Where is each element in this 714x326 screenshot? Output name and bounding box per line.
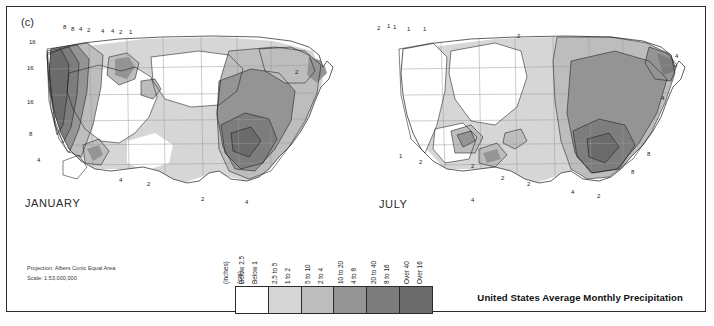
- contour-label: 2: [201, 196, 204, 202]
- contour-label: 1: [407, 26, 410, 32]
- projection-text: Projection: Albers Conic Equal Area: [27, 263, 115, 273]
- contour-label: 2: [87, 27, 90, 33]
- legend-swatch[interactable]: [367, 287, 400, 313]
- contour-label: 2: [377, 25, 380, 31]
- legend-label-group: 20 to 40 8 to 16: [367, 222, 400, 284]
- legend-cm-label: 10 to 20: [337, 261, 344, 284]
- legend-inches-label: 8 to 16: [383, 264, 390, 284]
- contour-label: 16: [29, 39, 36, 45]
- map-credits: Projection: Albers Conic Equal Area Scal…: [27, 263, 115, 284]
- contour-label: 4: [37, 157, 40, 163]
- contour-label: 2: [295, 69, 298, 75]
- legend-cm-label: 20 to 40: [370, 261, 377, 284]
- scale-text: Scale: 1:53,000,000: [27, 273, 115, 283]
- contour-label: 8: [29, 131, 32, 137]
- contour-label: 2: [147, 181, 150, 187]
- legend-cm-label: Below 2.5: [238, 256, 245, 284]
- contour-label: 4: [79, 26, 82, 32]
- contour-label: 16: [27, 65, 34, 71]
- contour-label: 8: [63, 24, 66, 30]
- legend-label-group: 5 to 10 2 to 4: [301, 222, 334, 284]
- contour-label: 4: [119, 177, 122, 183]
- figure-container: (c): [0, 0, 714, 326]
- contour-label: 1: [393, 24, 396, 30]
- contour-label: 4: [101, 28, 104, 34]
- map-label-july: JULY: [379, 198, 407, 210]
- legend-inches-label: Over 16: [416, 261, 423, 284]
- contour-label: 8: [631, 169, 634, 175]
- legend-swatch[interactable]: [269, 287, 302, 313]
- contour-label: 2: [527, 181, 530, 187]
- contour-label: 2: [471, 163, 474, 169]
- contour-label: 8: [71, 26, 74, 32]
- legend: (cm) (inches) Below 2.5 Below 1 2.5 to 5…: [235, 222, 435, 314]
- legend-label-group: Over 40 Over 16: [400, 222, 433, 284]
- legend-swatch[interactable]: [400, 287, 432, 313]
- legend-label-group: 2.5 to 5 1 to 2: [268, 222, 301, 284]
- contour-label: 4: [471, 197, 474, 203]
- legend-labels: Below 2.5 Below 1 2.5 to 5 1 to 2 5 to 1…: [235, 222, 433, 284]
- legend-swatches: [235, 286, 433, 314]
- contour-label: 1: [423, 26, 426, 32]
- contour-label: 4: [111, 28, 114, 34]
- contour-label: 1: [399, 153, 402, 159]
- contour-label: 4: [661, 95, 664, 101]
- contour-label: 1: [387, 23, 390, 29]
- map-label-january: JANUARY: [25, 197, 80, 209]
- legend-label-group: Below 2.5 Below 1: [235, 222, 268, 284]
- legend-swatch[interactable]: [334, 287, 367, 313]
- legend-swatch[interactable]: [236, 287, 269, 313]
- figure-frame: (c): [6, 6, 706, 312]
- legend-inches-label: 1 to 2: [284, 268, 291, 284]
- map-january[interactable]: 8 8 4 2 4 4 2 1 16 16 16 8 4 4 2 2 4 2: [23, 21, 353, 211]
- legend-inches-label: 2 to 4: [317, 268, 324, 284]
- contour-label: 4: [571, 189, 574, 195]
- contour-label: 4: [245, 199, 248, 205]
- contour-label: 2: [119, 29, 122, 35]
- legend-unit-inches: (inches): [222, 261, 229, 284]
- contour-label: 16: [27, 99, 34, 105]
- contour-label: 2: [517, 33, 520, 39]
- contour-label: 8: [647, 151, 650, 157]
- legend-swatch[interactable]: [302, 287, 335, 313]
- map-july[interactable]: 2 1 1 1 1 2 1 2 2 2 2 4 2 8 8 4 4 4: [375, 21, 705, 211]
- contour-label: 2: [419, 159, 422, 165]
- legend-label-group: 10 to 20 4 to 8: [334, 222, 367, 284]
- legend-cm-label: 5 to 10: [304, 264, 311, 284]
- figure-title: United States Average Monthly Precipitat…: [477, 292, 683, 303]
- contour-label: 2: [597, 193, 600, 199]
- legend-cm-label: 2.5 to 5: [271, 263, 278, 284]
- legend-inches-label: Below 1: [251, 261, 258, 284]
- legend-inches-label: 4 to 8: [350, 268, 357, 284]
- contour-label: 1: [129, 29, 132, 35]
- legend-cm-label: Over 40: [403, 261, 410, 284]
- contour-label: 4: [675, 53, 678, 59]
- contour-label: 2: [501, 175, 504, 181]
